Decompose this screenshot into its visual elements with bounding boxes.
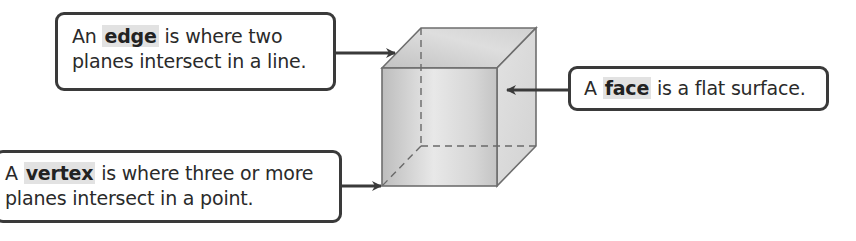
cube-front-face xyxy=(382,68,497,186)
face-callout: A face is a flat surface. xyxy=(568,66,829,111)
edge-term: edge xyxy=(102,25,158,47)
vertex-callout-line1: A vertex is where three or more xyxy=(5,161,329,186)
edge-callout-line1: An edge is where two xyxy=(72,24,323,49)
face-term: face xyxy=(603,77,651,99)
edge-callout: An edge is where two planes intersect in… xyxy=(55,12,336,91)
vertex-term: vertex xyxy=(24,162,96,184)
edge-suffix: is where two xyxy=(159,25,283,47)
vertex-suffix: is where three or more xyxy=(95,162,313,184)
edge-callout-line2: planes intersect in a line. xyxy=(72,49,323,74)
vertex-callout-line2: planes intersect in a point. xyxy=(5,186,329,211)
face-suffix: is a flat surface. xyxy=(651,77,806,99)
vertex-callout: A vertex is where three or more planes i… xyxy=(0,150,342,223)
face-callout-line1: A face is a flat surface. xyxy=(584,76,816,101)
cube xyxy=(382,28,536,186)
vertex-prefix: A xyxy=(5,162,24,184)
face-prefix: A xyxy=(584,77,603,99)
edge-prefix: An xyxy=(72,25,102,47)
